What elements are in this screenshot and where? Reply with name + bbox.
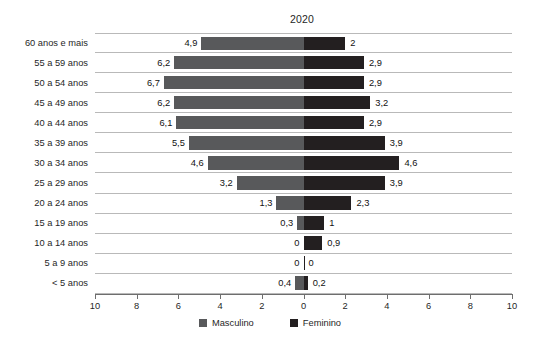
legend-item-masculino[interactable]: Masculino — [199, 318, 254, 328]
value-label-masculino: 0 — [294, 258, 299, 268]
bar-masculino[interactable] — [164, 76, 304, 90]
population-pyramid-chart: 2020 60 anos e mais4,9255 a 59 anos6,22,… — [0, 0, 540, 347]
x-axis-tick-label: 10 — [507, 301, 517, 311]
bar-feminino[interactable] — [304, 236, 323, 250]
x-axis-tick — [262, 294, 263, 299]
value-label-feminino: 2,9 — [369, 118, 382, 128]
chart-row: < 5 anos0,40,2 — [95, 274, 512, 294]
value-label-masculino: 1,3 — [259, 198, 272, 208]
value-label-feminino: 0,9 — [327, 238, 340, 248]
bar-feminino[interactable] — [304, 136, 385, 150]
bar-feminino[interactable] — [304, 216, 325, 230]
value-label-feminino: 0 — [309, 258, 314, 268]
bar-masculino[interactable] — [189, 136, 304, 150]
x-axis-tick-label: 4 — [218, 301, 223, 311]
value-label-masculino: 6,2 — [157, 98, 170, 108]
x-axis-tick-label: 6 — [176, 301, 181, 311]
value-label-masculino: 6,1 — [159, 118, 172, 128]
chart-row: 25 a 29 anos3,23,9 — [95, 173, 512, 193]
value-label-feminino: 3,9 — [390, 138, 403, 148]
chart-row: 35 a 39 anos5,53,9 — [95, 133, 512, 153]
category-label: 35 a 39 anos — [34, 138, 88, 148]
bar-feminino — [304, 256, 306, 270]
value-label-masculino: 3,2 — [220, 178, 233, 188]
chart-row: 45 a 49 anos6,23,2 — [95, 93, 512, 113]
chart-legend: Masculino Feminino — [0, 318, 540, 328]
category-label: 60 anos e mais — [25, 38, 88, 48]
x-axis-tick-label: 2 — [343, 301, 348, 311]
value-label-feminino: 3,9 — [390, 178, 403, 188]
chart-row: 60 anos e mais4,92 — [95, 33, 512, 53]
plot-area: 60 anos e mais4,9255 a 59 anos6,22,950 a… — [95, 33, 512, 294]
bar-masculino[interactable] — [174, 96, 303, 110]
category-label: 20 a 24 anos — [34, 198, 88, 208]
bar-feminino[interactable] — [304, 76, 364, 90]
value-label-masculino: 6,2 — [157, 58, 170, 68]
value-label-feminino: 3,2 — [375, 98, 388, 108]
bar-masculino[interactable] — [201, 37, 303, 51]
bar-masculino[interactable] — [276, 196, 303, 210]
value-label-masculino: 5,5 — [172, 138, 185, 148]
value-label-feminino: 2,9 — [369, 78, 382, 88]
x-axis-tick-label: 0 — [301, 301, 306, 311]
x-axis-tick-label: 10 — [90, 301, 100, 311]
x-axis-tick — [95, 294, 96, 299]
value-label-masculino: 0,4 — [278, 278, 291, 288]
chart-row: 5 a 9 anos00 — [95, 254, 512, 274]
chart-row: 40 a 44 anos6,12,9 — [95, 113, 512, 133]
bar-feminino[interactable] — [304, 176, 385, 190]
category-label: 40 a 44 anos — [34, 118, 88, 128]
category-label: 55 a 59 anos — [34, 58, 88, 68]
x-axis-tick — [345, 294, 346, 299]
x-axis-tick — [387, 294, 388, 299]
bar-masculino[interactable] — [174, 56, 303, 70]
bar-masculino[interactable] — [237, 176, 304, 190]
value-label-masculino: 0,3 — [280, 218, 293, 228]
category-label: 5 a 9 anos — [45, 258, 88, 268]
chart-row: 15 a 19 anos0,31 — [95, 214, 512, 234]
x-axis-tick-label: 8 — [468, 301, 473, 311]
bar-feminino[interactable] — [304, 96, 371, 110]
x-axis-tick-label: 2 — [259, 301, 264, 311]
bar-feminino[interactable] — [304, 37, 346, 51]
value-label-feminino: 2 — [350, 38, 355, 48]
legend-item-feminino[interactable]: Feminino — [290, 318, 341, 328]
value-label-feminino: 0,2 — [313, 278, 326, 288]
chart-title: 2020 — [0, 13, 540, 25]
chart-row: 30 a 34 anos4,64,6 — [95, 153, 512, 173]
chart-row: 10 a 14 anos00,9 — [95, 234, 512, 254]
bar-feminino[interactable] — [304, 196, 352, 210]
chart-row: 55 a 59 anos6,22,9 — [95, 53, 512, 73]
bar-feminino[interactable] — [304, 56, 364, 70]
value-label-masculino: 4,6 — [191, 158, 204, 168]
value-label-masculino: 0 — [294, 238, 299, 248]
bar-feminino[interactable] — [304, 116, 364, 130]
bar-masculino[interactable] — [208, 156, 304, 170]
chart-title-text: 2020 — [290, 13, 314, 25]
bar-feminino[interactable] — [304, 276, 308, 290]
value-label-masculino: 4,9 — [184, 38, 197, 48]
category-label: 15 a 19 anos — [34, 218, 88, 228]
x-axis-tick — [220, 294, 221, 299]
category-label: < 5 anos — [52, 278, 88, 288]
category-label: 25 a 29 anos — [34, 178, 88, 188]
bar-masculino[interactable] — [176, 116, 303, 130]
x-axis-tick-label: 4 — [384, 301, 389, 311]
chart-row: 50 a 54 anos6,72,9 — [95, 73, 512, 93]
x-axis-tick — [137, 294, 138, 299]
legend-label-masculino: Masculino — [212, 318, 254, 328]
value-label-feminino: 2,9 — [369, 58, 382, 68]
x-axis-tick — [470, 294, 471, 299]
x-axis-tick-label: 6 — [426, 301, 431, 311]
value-label-feminino: 2,3 — [356, 198, 369, 208]
x-axis-tick — [429, 294, 430, 299]
bar-feminino[interactable] — [304, 156, 400, 170]
x-axis-tick-label: 8 — [134, 301, 139, 311]
x-axis-tick — [304, 294, 305, 299]
category-label: 30 a 34 anos — [34, 158, 88, 168]
x-axis: 1086420246810 — [95, 294, 512, 295]
bar-masculino[interactable] — [295, 276, 303, 290]
legend-label-feminino: Feminino — [303, 318, 341, 328]
category-label: 10 a 14 anos — [34, 238, 88, 248]
value-label-feminino: 4,6 — [404, 158, 417, 168]
